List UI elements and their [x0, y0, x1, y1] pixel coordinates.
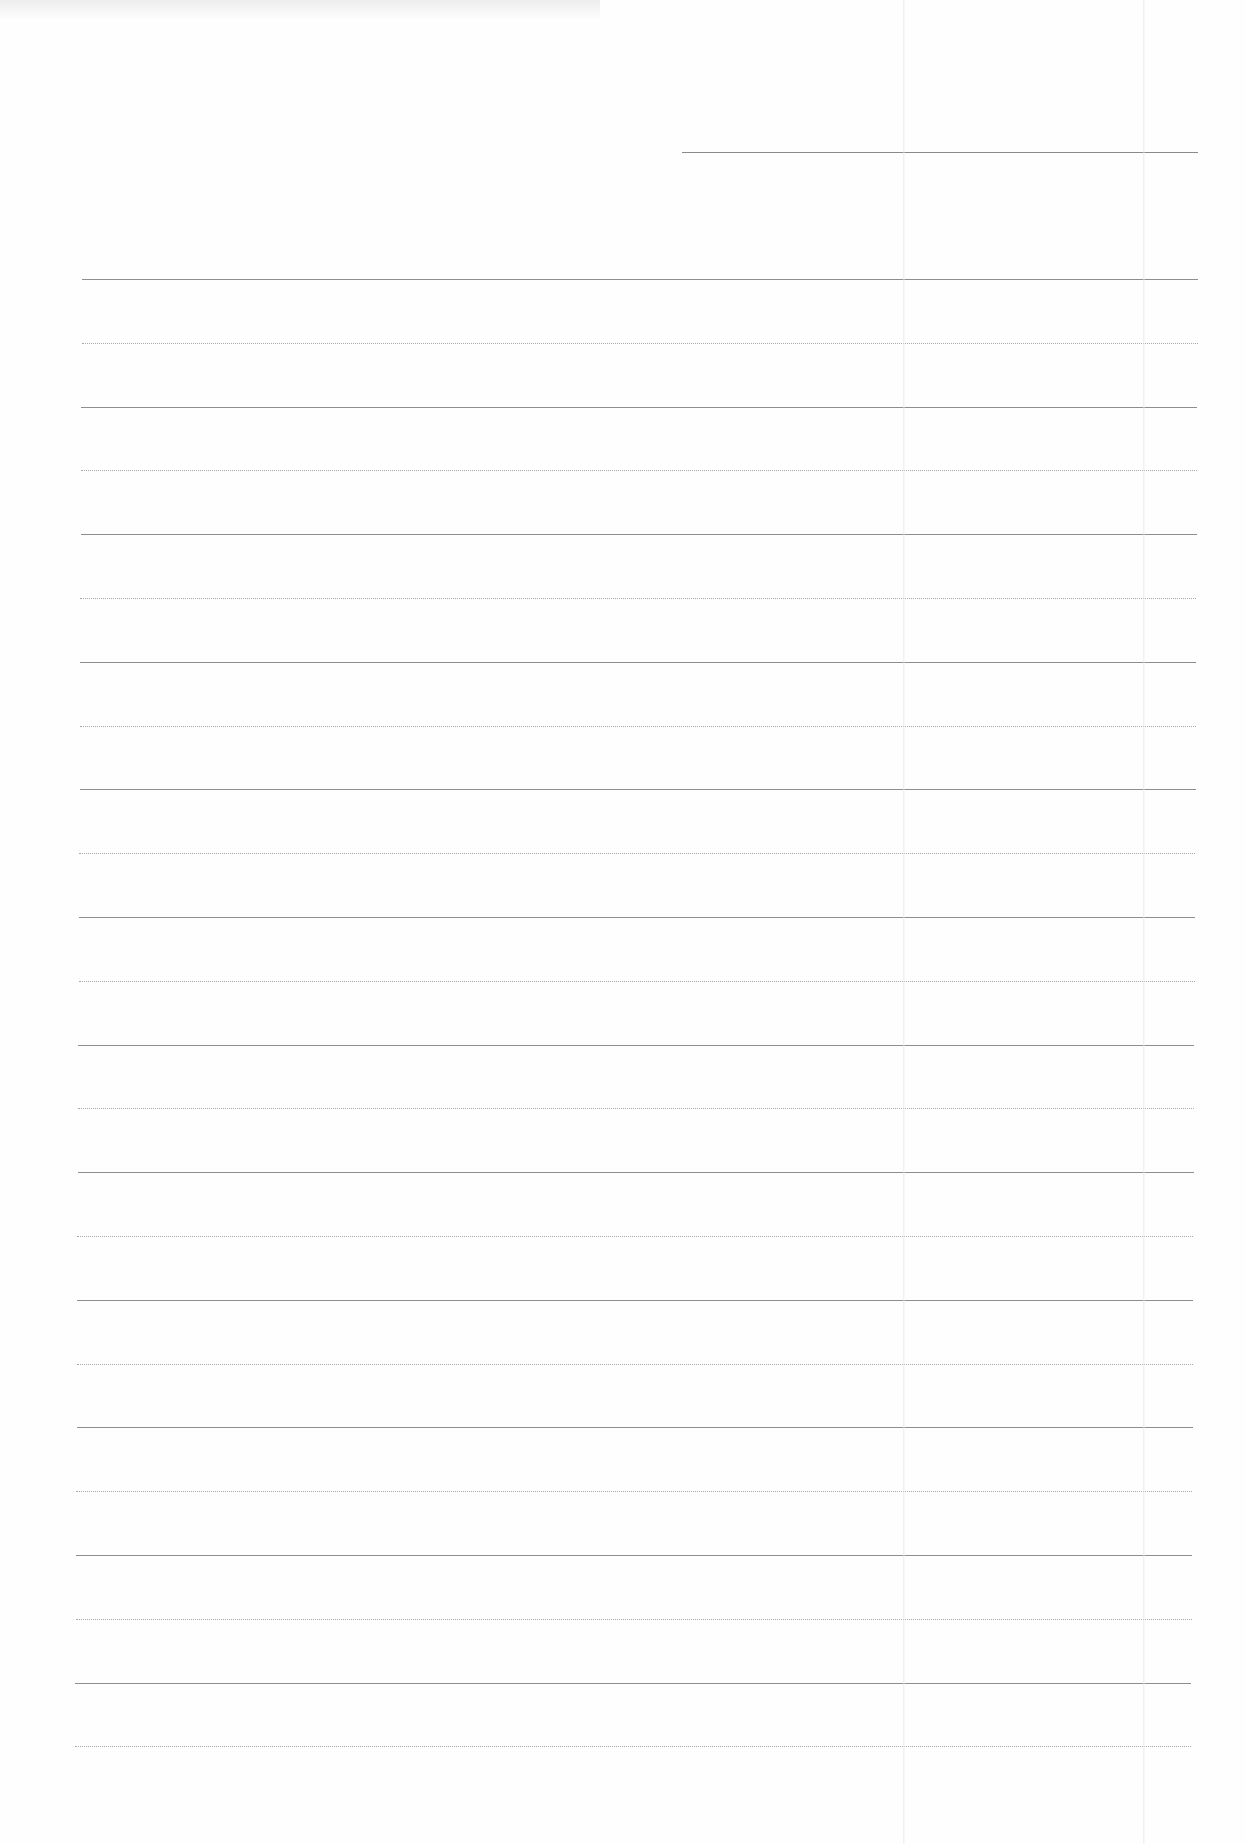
rule-line-dotted: [82, 343, 1198, 344]
rule-line-dotted: [81, 470, 1197, 471]
rule-line-solid: [75, 1683, 1191, 1684]
rule-line-solid: [82, 279, 1198, 280]
rule-line-dotted: [76, 1619, 1192, 1620]
rule-line-dotted: [79, 981, 1195, 982]
rule-line-solid: [77, 1300, 1193, 1301]
rule-line-solid: [81, 534, 1197, 535]
rule-line-dotted: [80, 598, 1196, 599]
rule-line-solid: [76, 1555, 1192, 1556]
rule-line-dotted: [75, 1746, 1191, 1747]
rule-line-solid: [79, 917, 1195, 918]
rule-line-solid: [78, 1172, 1194, 1173]
rule-line-solid: [77, 1427, 1193, 1428]
rule-line-solid: [81, 407, 1197, 408]
rule-line-dotted: [77, 1236, 1193, 1237]
lined-paper-page: [0, 0, 1246, 1844]
rule-line-dotted: [80, 726, 1196, 727]
scan-smudge: [0, 0, 600, 20]
header-name-line: [682, 152, 1198, 153]
rule-line-dotted: [76, 1491, 1192, 1492]
fold-crease-2: [1143, 0, 1145, 1844]
rule-line-solid: [80, 662, 1196, 663]
rule-line-dotted: [79, 853, 1195, 854]
fold-crease-1: [903, 0, 905, 1844]
rule-line-solid: [78, 1045, 1194, 1046]
rule-line-dotted: [78, 1108, 1194, 1109]
rule-line-solid: [80, 789, 1196, 790]
rule-line-dotted: [77, 1364, 1193, 1365]
